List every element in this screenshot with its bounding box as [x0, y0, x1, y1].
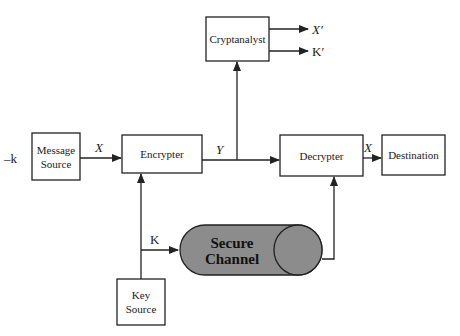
secure-channel-line2: Channel — [205, 251, 259, 267]
secure-channel-node: Secure Channel — [180, 225, 322, 275]
key-source-line1: Key — [132, 289, 151, 301]
edge-label-k: K — [150, 232, 160, 247]
decrypter-node: Decrypter — [280, 135, 363, 176]
destination-label: Destination — [388, 149, 439, 161]
edge-label-x-1: X — [94, 140, 104, 155]
output-k-prime: K′ — [312, 44, 324, 59]
key-source-line2: Source — [126, 303, 157, 315]
edge-label-y: Y — [216, 142, 225, 157]
edge-channel-decrypter — [322, 177, 334, 259]
edge-label-x-2: X — [363, 140, 373, 155]
message-source-line1: Message — [37, 144, 76, 156]
cryptanalyst-node: Cryptanalyst — [206, 17, 269, 61]
key-source-node: Key Source — [117, 279, 165, 325]
message-source-node: Message Source — [32, 133, 80, 180]
encrypter-label: Encrypter — [140, 148, 184, 160]
secure-channel-line1: Secure — [210, 235, 253, 251]
destination-node: Destination — [382, 135, 445, 175]
cryptosystem-diagram: –k Message Source X Encrypter Y Cryptana… — [0, 0, 460, 336]
cryptanalyst-label: Cryptanalyst — [209, 33, 265, 45]
output-x-prime: X′ — [311, 22, 323, 37]
decrypter-label: Decrypter — [300, 150, 344, 162]
left-k-label: –k — [3, 151, 18, 166]
message-source-line2: Source — [41, 158, 72, 170]
encrypter-node: Encrypter — [122, 135, 202, 173]
